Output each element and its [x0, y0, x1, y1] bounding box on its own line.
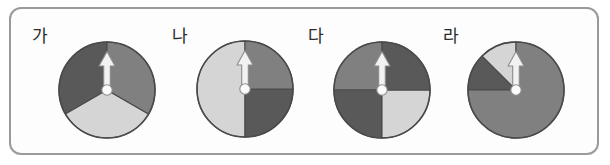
spinner-label-2: 다 [308, 28, 324, 45]
spinner-wheel-2[interactable] [330, 38, 434, 142]
spinner-label-0: 가 [32, 28, 48, 45]
spinner-wheel-3[interactable] [464, 38, 568, 142]
spinner-2-hub [377, 85, 387, 95]
spinner-wheel-0[interactable] [55, 38, 159, 142]
spinner-label-1: 나 [172, 28, 188, 45]
spinner-figure: 가나다라 [0, 0, 610, 165]
spinner-0-hub [102, 85, 112, 95]
spinner-1-hub [240, 84, 250, 94]
spinner-3-hub [511, 85, 521, 95]
spinner-1-light-sector [197, 41, 245, 137]
spinner-label-3: 라 [443, 28, 459, 45]
spinner-wheel-1[interactable] [193, 37, 297, 141]
